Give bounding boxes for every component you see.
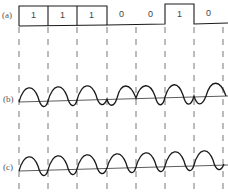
bit-value: 1 bbox=[19, 10, 48, 20]
panel-label-b: (b) bbox=[3, 94, 14, 104]
bit-boundary-dashes bbox=[19, 27, 223, 192]
panel-label-a: (a) bbox=[2, 10, 12, 20]
carrier-waveform-c bbox=[19, 151, 224, 176]
bit-value: 0 bbox=[194, 8, 223, 18]
bit-waveform-diagram bbox=[0, 0, 228, 192]
bit-value: 0 bbox=[136, 9, 165, 19]
bit-value: 1 bbox=[77, 10, 106, 20]
bit-value: 0 bbox=[107, 9, 136, 19]
baseline-c bbox=[19, 165, 228, 171]
bit-value: 1 bbox=[48, 10, 77, 20]
psk-waveform-b bbox=[19, 83, 226, 106]
panel-label-c: (c) bbox=[3, 162, 13, 172]
bit-value: 1 bbox=[165, 9, 194, 19]
